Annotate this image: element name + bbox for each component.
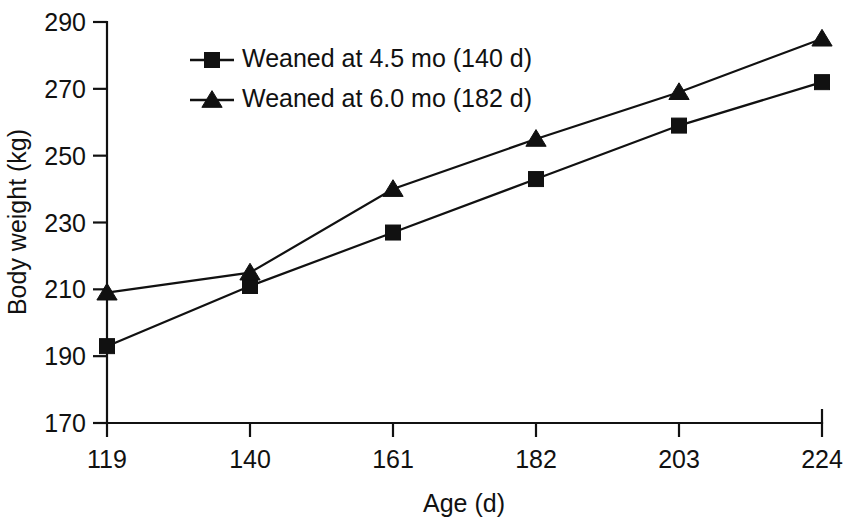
x-tick-label: 161 bbox=[372, 445, 414, 473]
y-tick-label: 250 bbox=[44, 142, 86, 170]
triangle-data-point bbox=[526, 130, 546, 147]
x-tick-label: 140 bbox=[229, 445, 271, 473]
square-data-point bbox=[243, 278, 258, 293]
y-tick-label: 190 bbox=[44, 342, 86, 370]
chart-legend: Weaned at 4.5 mo (140 d)Weaned at 6.0 mo… bbox=[190, 44, 532, 112]
triangle-data-point bbox=[240, 263, 260, 280]
legend-label: Weaned at 4.5 mo (140 d) bbox=[242, 44, 532, 72]
y-axis-title: Body weight (kg) bbox=[3, 129, 31, 315]
square-data-point bbox=[529, 172, 544, 187]
square-data-point bbox=[386, 225, 401, 240]
x-axis-tick-labels: 119140161182203224 bbox=[87, 445, 843, 473]
square-data-point bbox=[100, 339, 115, 354]
x-tick-label: 203 bbox=[658, 445, 700, 473]
x-tick-label: 182 bbox=[515, 445, 557, 473]
x-axis-title: Age (d) bbox=[423, 489, 505, 517]
data-series-group bbox=[97, 29, 832, 353]
series-polyline bbox=[107, 39, 822, 293]
series-1 bbox=[100, 75, 830, 354]
x-tick-label: 119 bbox=[87, 445, 127, 473]
x-tick-label: 224 bbox=[801, 445, 843, 473]
y-axis-ticks bbox=[93, 22, 107, 423]
square-data-point bbox=[815, 75, 830, 90]
square-data-point bbox=[672, 118, 687, 133]
triangle-data-point bbox=[669, 83, 689, 100]
line-chart-canvas: 170190210230250270290 119140161182203224… bbox=[0, 0, 853, 522]
triangle-data-point bbox=[812, 29, 832, 46]
y-tick-label: 170 bbox=[44, 409, 86, 437]
legend-label: Weaned at 6.0 mo (182 d) bbox=[242, 84, 532, 112]
y-tick-label: 210 bbox=[44, 275, 86, 303]
legend-entry: Weaned at 4.5 mo (140 d) bbox=[190, 44, 532, 72]
y-tick-label: 270 bbox=[44, 75, 86, 103]
x-axis-ticks bbox=[107, 423, 822, 437]
series-polyline bbox=[107, 82, 822, 346]
y-tick-label: 230 bbox=[44, 209, 86, 237]
y-axis-tick-labels: 170190210230250270290 bbox=[44, 8, 86, 437]
legend-entry: Weaned at 6.0 mo (182 d) bbox=[190, 84, 532, 112]
triangle-data-point bbox=[383, 180, 403, 197]
chart-figure: 170190210230250270290 119140161182203224… bbox=[0, 0, 853, 522]
y-tick-label: 290 bbox=[44, 8, 86, 36]
square-marker bbox=[205, 53, 220, 68]
